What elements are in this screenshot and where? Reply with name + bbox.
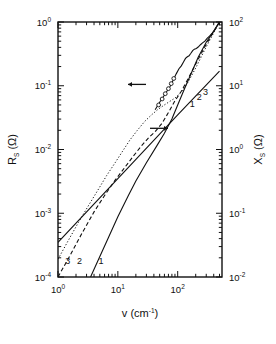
data-marker: [163, 92, 167, 96]
x-tick-label: 100: [51, 283, 66, 295]
y-right-tick-label: 100: [229, 143, 244, 155]
data-marker: [160, 97, 164, 101]
y-left-tick-label: 10-1: [35, 79, 52, 91]
curve-label-1: 1: [190, 99, 195, 109]
y-right-axis-title: XS (Ω): [252, 134, 266, 164]
y-left-tick-label: 100: [37, 16, 52, 28]
curve-label-3: 3: [65, 256, 70, 266]
y-left-axis-title: RS (Ω): [6, 134, 20, 165]
curve-experimental: [155, 22, 219, 110]
y-right-tick-label: 10-1: [229, 207, 246, 219]
log-log-plot: 10010110210-410-310-210-110010-210-11001…: [0, 0, 276, 344]
curve-label-3: 3: [203, 87, 208, 97]
x-axis-title: v (cm-1): [122, 307, 158, 319]
figure-container: 10010110210-410-310-210-110010-210-11001…: [0, 0, 276, 344]
y-left-tick-label: 10-2: [35, 143, 52, 155]
x-tick-label: 102: [171, 283, 186, 295]
data-marker: [167, 87, 171, 91]
data-marker: [169, 82, 173, 86]
y-left-tick-label: 10-3: [35, 207, 52, 219]
data-marker: [157, 103, 161, 107]
curve-1: [91, 22, 220, 277]
y-left-tick-label: 10-4: [35, 271, 52, 283]
x-tick-label: 101: [111, 283, 126, 295]
curve-label-2: 2: [77, 256, 82, 266]
curve-2: [58, 22, 220, 277]
curve-3: [58, 22, 220, 259]
y-right-tick-label: 102: [229, 16, 244, 28]
curve-XS-line: [58, 71, 220, 242]
curve-label-2: 2: [197, 92, 202, 102]
y-right-tick-label: 101: [229, 79, 244, 91]
arrow-to-left-axis-head: [128, 82, 132, 87]
data-marker: [172, 77, 176, 81]
curve-label-1: 1: [98, 256, 103, 266]
y-right-tick-label: 10-2: [229, 271, 246, 283]
